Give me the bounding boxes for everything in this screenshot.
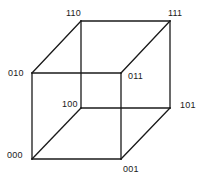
vertex-label-111: 111 <box>168 8 182 18</box>
vertex-label-000: 000 <box>7 150 23 160</box>
edge-011-111 <box>121 21 170 73</box>
cube-diagram <box>0 0 200 179</box>
vertex-label-011: 011 <box>128 71 143 81</box>
vertex-label-001: 001 <box>123 164 139 174</box>
edge-000-100 <box>32 108 81 159</box>
vertex-label-010: 010 <box>8 68 24 78</box>
vertex-label-110: 110 <box>66 8 81 18</box>
edge-001-101 <box>121 108 170 159</box>
vertex-label-101: 101 <box>180 100 196 110</box>
edge-010-110 <box>32 21 81 73</box>
vertex-label-100: 100 <box>62 99 78 109</box>
